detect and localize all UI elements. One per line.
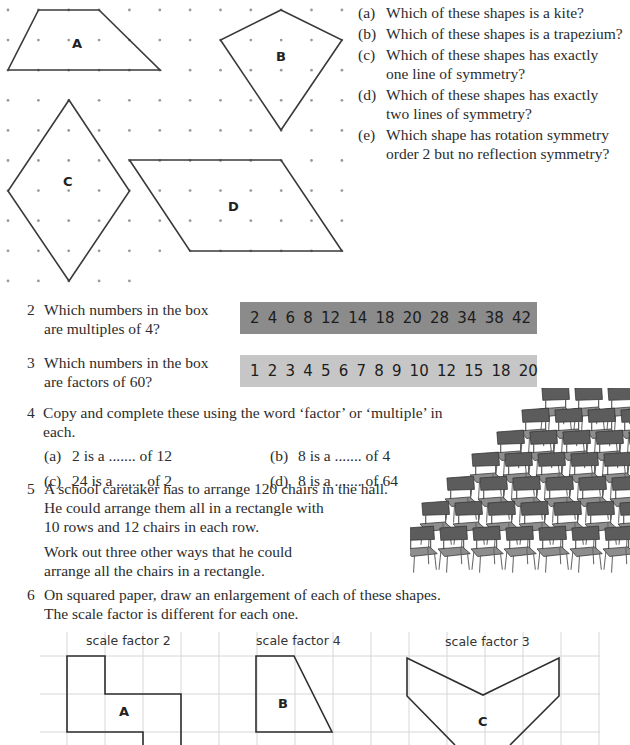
- part-text: Which of these shapes is a kite?: [386, 3, 630, 22]
- part-text-line2: order 2 but no reflection symmetry?: [386, 144, 630, 163]
- question-text-line4: Work out three other ways that he could: [27, 542, 427, 561]
- question-text-line5: arrange all the chairs in a rectangle.: [27, 561, 427, 580]
- shape-b-label: B: [276, 49, 286, 64]
- part-text: Which of these shapes is a trapezium?: [386, 24, 630, 43]
- part-text: 2 is a ....... of 12: [72, 446, 172, 465]
- box-number: 14: [348, 309, 367, 327]
- dot-grid: [7, 9, 344, 283]
- part-text-line1: Which shape has rotation symmetry: [386, 125, 630, 144]
- box-number: 6: [285, 309, 295, 327]
- shape-d-label: D: [228, 199, 239, 214]
- caption-scale-factor-2: scale factor 2: [86, 633, 171, 648]
- question-number: 4: [27, 403, 39, 441]
- question-intro: Copy and complete these using the word ‘…: [39, 403, 447, 441]
- squared-grid-enlargement-figure: A B C scale factor 2 scale factor 4 scal…: [0, 630, 630, 745]
- box-number: 12: [321, 309, 340, 327]
- box-number: 18: [491, 362, 510, 380]
- question-text-line1: A school caretaker has to arrange 120 ch…: [40, 479, 388, 498]
- box-number: 18: [376, 309, 395, 327]
- question-5: 5 A school caretaker has to arrange 120 …: [27, 479, 427, 580]
- shape-a-trapezium: [8, 10, 160, 70]
- shape-c-label: C: [63, 174, 73, 189]
- question-1c: (c) Which of these shapes has exactly on…: [358, 45, 630, 83]
- box-number: 20: [403, 309, 422, 327]
- question-text-line2: are multiples of 4?: [27, 319, 237, 338]
- question-4: 4 Copy and complete these using the word…: [27, 403, 447, 490]
- caption-scale-factor-3: scale factor 3: [445, 634, 530, 649]
- question-text-line2: are factors of 60?: [27, 372, 237, 391]
- factors-number-box: 1234567891012151820: [240, 355, 537, 387]
- question-number: 3: [27, 353, 40, 372]
- box-number: 6: [339, 362, 349, 380]
- part-label: (c): [358, 45, 386, 83]
- question-1e: (e) Which shape has rotation symmetry or…: [358, 125, 630, 163]
- shape-a-label: A: [119, 704, 129, 719]
- box-number: 4: [303, 362, 313, 380]
- question-4b: (b) 8 is a ....... of 4: [270, 446, 390, 465]
- question-3: 3 Which numbers in the box are factors o…: [27, 353, 237, 391]
- box-number: 15: [464, 362, 483, 380]
- question-number: 2: [27, 300, 40, 319]
- question-1-parts: (a) Which of these shapes is a kite? (b)…: [358, 3, 630, 165]
- box-number: 9: [392, 362, 402, 380]
- question-4a: (a) 2 is a ....... of 12: [27, 446, 270, 465]
- box-number: 3: [285, 362, 295, 380]
- box-number: 5: [321, 362, 331, 380]
- box-number: 8: [374, 362, 384, 380]
- question-1b: (b) Which of these shapes is a trapezium…: [358, 24, 630, 43]
- question-text-line2: He could arrange them all in a rectangle…: [27, 498, 427, 517]
- part-label: (a): [44, 446, 72, 465]
- question-text-line1: Which numbers in the box: [40, 300, 208, 319]
- box-number: 2: [250, 309, 260, 327]
- box-number: 38: [485, 309, 504, 327]
- question-number: 5: [27, 479, 40, 498]
- box-number: 8: [303, 309, 313, 327]
- part-text-line1: Which of these shapes has exactly: [386, 45, 630, 64]
- stacked-chairs-illustration: [410, 388, 630, 588]
- question-number: 6: [27, 585, 40, 604]
- box-number: 1: [250, 362, 260, 380]
- box-number: 10: [410, 362, 429, 380]
- box-number: 20: [519, 362, 538, 380]
- question-text-line2: The scale factor is different for each o…: [27, 604, 507, 623]
- multiples-number-box: 24681214182028343842: [240, 302, 537, 334]
- question-1a: (a) Which of these shapes is a kite?: [358, 3, 630, 22]
- dot-grid-shapes-figure: A B C D: [0, 0, 352, 292]
- shape-c-label: C: [478, 714, 488, 729]
- box-number: 34: [457, 309, 476, 327]
- box-number: 42: [512, 309, 531, 327]
- shape-b-label: B: [278, 696, 288, 711]
- part-label: (d): [358, 85, 386, 123]
- question-6: 6 On squared paper, draw an enlargement …: [27, 585, 507, 623]
- question-text-line1: Which numbers in the box: [40, 353, 208, 372]
- question-text-line1: On squared paper, draw an enlargement of…: [40, 585, 441, 604]
- box-number: 12: [437, 362, 456, 380]
- caption-scale-factor-4: scale factor 4: [256, 633, 341, 648]
- shape-a-label: A: [72, 36, 82, 51]
- part-text: 8 is a ....... of 4: [298, 446, 390, 465]
- box-number: 7: [356, 362, 366, 380]
- part-text-line2: two lines of symmetry?: [386, 104, 630, 123]
- box-number: 2: [268, 362, 278, 380]
- box-number: 4: [268, 309, 278, 327]
- part-label: (b): [270, 446, 298, 465]
- box-number: 28: [430, 309, 449, 327]
- question-2: 2 Which numbers in the box are multiples…: [27, 300, 237, 338]
- question-1d: (d) Which of these shapes has exactly tw…: [358, 85, 630, 123]
- part-label: (b): [358, 24, 386, 43]
- part-text-line1: Which of these shapes has exactly: [386, 85, 630, 104]
- part-label: (a): [358, 3, 386, 22]
- part-text-line2: one line of symmetry?: [386, 64, 630, 83]
- part-label: (e): [358, 125, 386, 163]
- question-text-line3: 10 rows and 12 chairs in each row.: [27, 517, 427, 536]
